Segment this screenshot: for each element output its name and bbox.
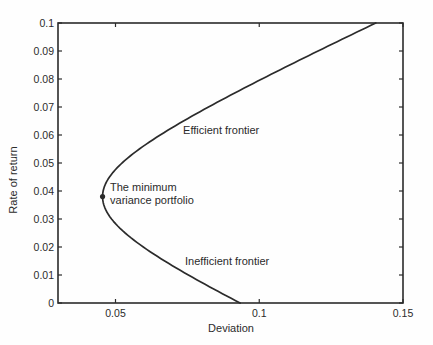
y-tick-label: 0.07	[14, 102, 54, 113]
y-tick-label: 0.05	[14, 158, 54, 169]
min-variance-label: The minimum variance portfolio	[110, 181, 194, 207]
efficient-frontier-figure: Rate of return Deviation 00.010.020.030.…	[0, 0, 433, 345]
plot-canvas	[0, 0, 433, 345]
y-tick-label: 0.01	[14, 270, 54, 281]
y-tick-label: 0.06	[14, 130, 54, 141]
min-variance-marker	[100, 194, 105, 199]
inefficient-frontier-label: Inefficient frontier	[185, 255, 269, 268]
y-tick-label: 0.09	[14, 46, 54, 57]
y-tick-label: 0.08	[14, 74, 54, 85]
x-tick-label: 0.15	[381, 308, 425, 319]
efficient-frontier-label: Efficient frontier	[183, 124, 259, 137]
x-tick-label: 0.1	[237, 308, 281, 319]
y-tick-label: 0.02	[14, 242, 54, 253]
y-axis-title: Rate of return	[7, 146, 19, 213]
y-tick-label: 0.04	[14, 186, 54, 197]
y-tick-label: 0.1	[14, 18, 54, 29]
y-tick-label: 0.03	[14, 214, 54, 225]
y-tick-label: 0	[14, 298, 54, 309]
x-tick-label: 0.05	[94, 308, 138, 319]
x-axis-title: Deviation	[208, 322, 254, 334]
